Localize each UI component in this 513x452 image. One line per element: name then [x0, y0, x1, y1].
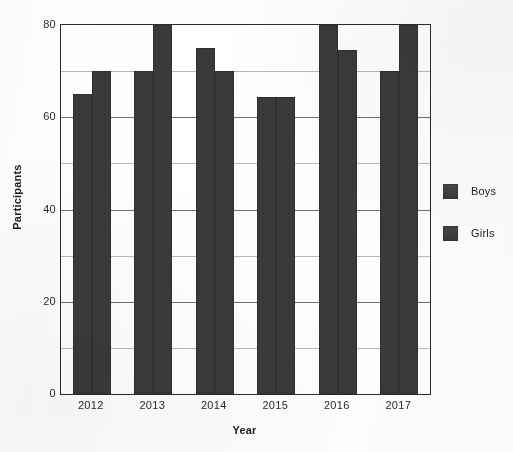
bar-boys-2014[interactable]	[196, 48, 215, 394]
x-tick-label: 2015	[262, 399, 288, 411]
x-tick-label: 2013	[139, 399, 165, 411]
gridline	[61, 117, 430, 118]
bar-group	[134, 25, 172, 394]
x-tick-label: 2016	[324, 399, 350, 411]
x-tick-label: 2012	[78, 399, 104, 411]
bar-group	[196, 25, 234, 394]
bar-group	[257, 25, 295, 394]
chart-legend: BoysGirls	[443, 176, 511, 260]
y-axis-tick-labels: 020406080	[22, 0, 56, 452]
legend-item-girls[interactable]: Girls	[443, 218, 511, 248]
y-tick-label: 40	[28, 203, 56, 215]
bar-boys-2016[interactable]	[319, 25, 338, 394]
x-axis-title: Year	[60, 424, 429, 436]
gridline	[61, 348, 430, 349]
plot-area	[60, 24, 431, 395]
legend-item-boys[interactable]: Boys	[443, 176, 511, 206]
gridline	[61, 302, 430, 303]
legend-swatch-boys	[443, 184, 458, 199]
bar-boys-2015[interactable]	[257, 97, 276, 395]
y-tick-label: 60	[28, 110, 56, 122]
gridline	[61, 210, 430, 211]
bar-boys-2013[interactable]	[134, 71, 153, 394]
bar-girls-2015[interactable]	[276, 97, 295, 395]
bar-girls-2014[interactable]	[215, 71, 234, 394]
x-tick-label: 2017	[385, 399, 411, 411]
gridline	[61, 71, 430, 72]
bar-girls-2013[interactable]	[153, 25, 172, 394]
bar-girls-2017[interactable]	[399, 25, 418, 394]
y-tick-label: 20	[28, 295, 56, 307]
gridline	[61, 163, 430, 164]
legend-swatch-girls	[443, 226, 458, 241]
bar-boys-2012[interactable]	[73, 94, 92, 394]
plot-inner	[61, 25, 430, 394]
gridline	[61, 256, 430, 257]
bar-boys-2017[interactable]	[380, 71, 399, 394]
bar-girls-2012[interactable]	[92, 71, 111, 394]
bar-group	[73, 25, 111, 394]
y-tick-label: 0	[28, 387, 56, 399]
legend-label: Girls	[471, 227, 495, 239]
legend-label: Boys	[471, 185, 496, 197]
y-tick-label: 80	[28, 18, 56, 30]
bar-group	[380, 25, 418, 394]
x-tick-label: 2014	[201, 399, 227, 411]
chart-figure: Participants 020406080 20122013201420152…	[0, 0, 513, 452]
bar-girls-2016[interactable]	[338, 50, 357, 394]
bar-group	[319, 25, 357, 394]
x-axis-tick-labels: 201220132014201520162017	[60, 399, 429, 417]
